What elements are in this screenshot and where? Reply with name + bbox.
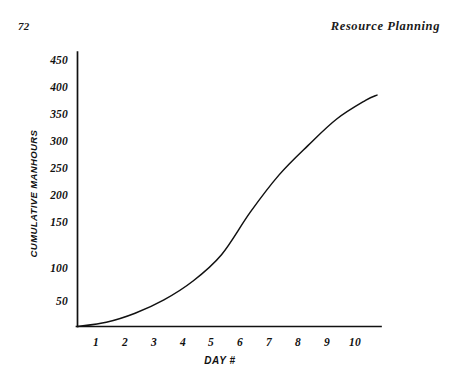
cumulative-manhours-curve bbox=[78, 95, 378, 326]
y-tick-50: 50 bbox=[28, 295, 68, 307]
x-tick-6: 6 bbox=[228, 336, 252, 348]
book-page: 72 Resource Planning 450 400 350 300 250… bbox=[0, 0, 458, 383]
x-tick-8: 8 bbox=[286, 336, 310, 348]
s-curve-figure: 450 400 350 300 250 200 150 100 50 1 2 3… bbox=[0, 0, 458, 383]
plot-canvas bbox=[0, 0, 458, 383]
x-tick-2: 2 bbox=[113, 336, 137, 348]
x-tick-5: 5 bbox=[199, 336, 223, 348]
y-tick-450: 450 bbox=[28, 54, 68, 66]
axes-group bbox=[77, 52, 382, 327]
x-tick-1: 1 bbox=[84, 336, 108, 348]
x-tick-4: 4 bbox=[171, 336, 195, 348]
x-axis-label: DAY # bbox=[160, 355, 280, 366]
x-tick-3: 3 bbox=[142, 336, 166, 348]
y-axis-label: CUMULATIVE MANHOURS bbox=[28, 114, 39, 274]
y-tick-400: 400 bbox=[28, 81, 68, 93]
x-tick-7: 7 bbox=[257, 336, 281, 348]
x-tick-9: 9 bbox=[315, 336, 339, 348]
x-tick-10: 10 bbox=[343, 336, 367, 348]
